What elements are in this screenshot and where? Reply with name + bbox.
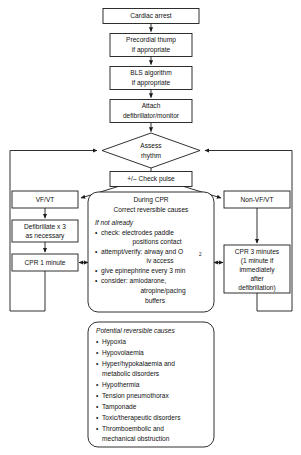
node-cpr-1-minute: CPR 1 minute [12, 254, 78, 271]
flowchart-canvas: Cardiac arrest Precordial thump if appro… [0, 0, 301, 455]
panel-during-cpr: During CPR Correct reversible causes If … [88, 192, 214, 312]
node-non-vf-vt: Non-VF/VT [224, 191, 290, 208]
reversible-cause-2-label: Hyper/hypokalaemia and [102, 360, 175, 368]
during-cpr-bullet-3-line1: consider: amiodarone, [101, 277, 166, 284]
reversible-cause-1-label: Hypovolaemia [102, 349, 144, 357]
node-precordial-thump: Precordial thump if appropriate [110, 34, 192, 57]
during-cpr-bullet-1-line1: attempt/verify: airway and O [101, 248, 183, 256]
node-bls-algorithm: BLS algorithm if appropriate [110, 67, 192, 90]
during-cpr-bullet-3-line2: atropine/pacing [140, 287, 185, 295]
reversible-cause-0-label: Hypoxia [102, 338, 126, 346]
during-cpr-heading-line1: During CPR [133, 196, 168, 204]
node-precordial-thump-label-line1: Precordial thump [126, 36, 176, 44]
node-attach-defibrillator: Attach defibrillator/monitor [110, 100, 192, 123]
panel-reversible-causes: Potential reversible causes • Hypoxia • … [88, 322, 214, 447]
during-cpr-bullet-1-subscript: 2 [199, 252, 202, 257]
reversible-cause-2-label-line2: metabolic disorders [102, 370, 160, 377]
node-cpr-3-minutes-label-line5: defibrillation) [238, 284, 275, 292]
during-cpr-bullet-0-line2: positions contact [132, 238, 181, 246]
during-cpr-bullet-2-line1: give epinephrine every 3 min [101, 267, 186, 275]
node-assess-label-line2: rhythm [141, 152, 162, 160]
node-non-vf-vt-label: Non-VF/VT [241, 196, 274, 203]
during-cpr-bullet-1-line2: iv access [146, 257, 174, 264]
node-assess-rhythm: Assess rhythm [102, 133, 200, 168]
node-cpr-3-minutes-label-line2: (1 minute if [241, 257, 274, 265]
node-cpr-3-minutes: CPR 3 minutes (1 minute if immediately a… [224, 245, 290, 293]
node-check-pulse-label: +/– Check pulse [127, 175, 175, 183]
reversible-cause-6-label: Toxic/therapeutic disorders [102, 414, 181, 422]
during-cpr-subheading: If not already [95, 219, 134, 227]
node-assess-label-line1: Assess [140, 142, 162, 149]
during-cpr-heading-line2: Correct reversible causes [114, 206, 189, 213]
node-bls-label-line2: if appropriate [132, 79, 171, 87]
node-precordial-thump-label-line2: if appropriate [132, 46, 171, 54]
node-defibrillate: Defibrillate x 3 as necessary [12, 220, 78, 242]
node-cpr-3-minutes-label-line3: immediately [239, 266, 275, 274]
als-cardiac-arrest-flowchart: Cardiac arrest Precordial thump if appro… [0, 0, 301, 455]
node-cardiac-arrest: Cardiac arrest [103, 9, 199, 24]
reversible-cause-7-label: Thromboembolic and [102, 425, 164, 432]
node-cpr-3-minutes-label-line1: CPR 3 minutes [235, 248, 280, 255]
reversible-cause-7-label-line2: mechanical obstruction [102, 435, 170, 442]
node-vf-vt-label: VF/VT [36, 196, 55, 203]
node-attach-label-line2: defibrillator/monitor [123, 112, 180, 119]
reversible-cause-4-label: Tension pneumothorax [102, 392, 169, 400]
node-bls-label-line1: BLS algorithm [130, 69, 172, 77]
node-vf-vt: VF/VT [12, 191, 78, 208]
during-cpr-bullet-0-line1: check: electrodes paddle [101, 229, 174, 237]
node-cardiac-arrest-label: Cardiac arrest [130, 12, 172, 19]
node-cpr-1-minute-label: CPR 1 minute [24, 259, 65, 266]
node-cpr-3-minutes-label-line4: after [250, 275, 264, 282]
during-cpr-bullet-3-line3: buffers [145, 297, 166, 304]
reversible-causes-heading: Potential reversible causes [96, 327, 176, 334]
node-defibrillate-label-line1: Defibrillate x 3 [24, 223, 66, 230]
node-check-pulse: +/– Check pulse [110, 172, 192, 187]
node-attach-label-line1: Attach [142, 102, 161, 109]
node-defibrillate-label-line2: as necessary [26, 232, 66, 240]
reversible-cause-3-label: Hypothermia [102, 381, 140, 389]
reversible-cause-5-label: Tamponade [102, 403, 137, 411]
